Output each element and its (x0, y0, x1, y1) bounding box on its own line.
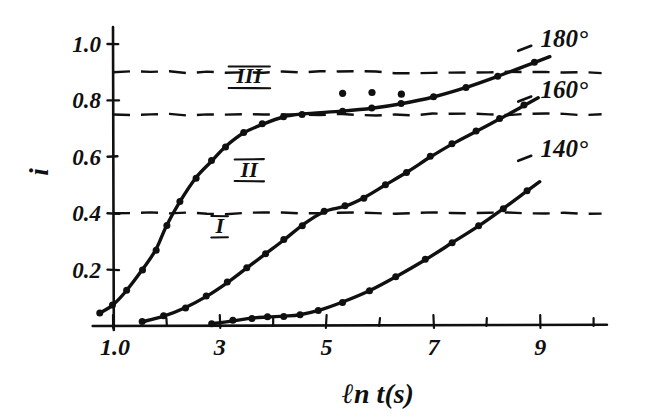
data-point (264, 313, 271, 320)
data-point (500, 205, 507, 212)
data-point (240, 129, 247, 136)
data-point (243, 264, 250, 271)
data-point (473, 128, 480, 135)
data-point (139, 318, 146, 325)
data-point (182, 304, 189, 311)
data-point (341, 202, 348, 209)
data-point (208, 320, 215, 327)
data-point (382, 181, 389, 188)
data-point (280, 313, 287, 320)
data-point (262, 250, 269, 257)
data-point (208, 157, 215, 164)
data-point (531, 59, 538, 66)
data-point (203, 292, 210, 299)
data-point (280, 236, 287, 243)
kinetics-chart: 1.00.80.60.40.2 1.03579 i ℓn t(s) IIIIII… (0, 0, 655, 419)
y-tick-label: 0.2 (72, 258, 101, 283)
x-tick-label: 9 (534, 334, 546, 360)
data-point (403, 169, 410, 176)
data-point (109, 301, 116, 308)
x-axis-tick (379, 318, 380, 326)
data-point (224, 278, 231, 285)
data-point (153, 247, 160, 254)
data-point (449, 239, 456, 246)
series-label-180: 180° (540, 25, 588, 52)
data-point (339, 299, 346, 306)
data-point (163, 222, 170, 229)
data-point (193, 175, 200, 182)
data-point-outlier (339, 90, 346, 97)
data-point (494, 73, 501, 80)
data-point (299, 222, 306, 229)
data-point (315, 307, 322, 314)
data-point (248, 315, 255, 322)
data-point (299, 111, 306, 118)
data-point (392, 273, 399, 280)
y-tick-label: 0.6 (72, 145, 101, 170)
y-tick-label: 0.4 (72, 201, 101, 226)
data-point (368, 105, 375, 112)
data-point (366, 287, 373, 294)
y-tick-label: 1.0 (72, 32, 101, 57)
data-point (520, 101, 527, 108)
data-point-outlier (368, 89, 375, 96)
y-axis-tick (108, 156, 118, 157)
x-tick-label: 7 (427, 334, 440, 360)
figure-container: 1.00.80.60.40.2 1.03579 i ℓn t(s) IIIIII… (0, 0, 655, 419)
x-tick-label: 1.0 (100, 334, 130, 360)
x-axis-tick (326, 315, 327, 328)
x-axis-title: ℓn t(s) (341, 378, 414, 409)
x-axis-line (93, 325, 607, 326)
data-point (462, 84, 469, 91)
series-label-160: 160° (540, 76, 588, 103)
data-point (259, 120, 266, 127)
data-point (427, 153, 434, 160)
data-point (96, 309, 103, 316)
x-axis-tick (433, 315, 434, 328)
data-point (123, 287, 130, 294)
data-point (280, 113, 287, 120)
data-point (229, 317, 236, 324)
data-point (475, 222, 482, 229)
data-point (321, 208, 328, 215)
data-point (422, 256, 429, 263)
x-tick-label: 3 (213, 334, 226, 360)
y-tick-label: 0.8 (72, 88, 101, 113)
data-point (222, 143, 229, 150)
data-point (524, 187, 531, 194)
data-point (160, 312, 167, 319)
data-point (448, 140, 455, 147)
data-point (339, 108, 346, 115)
data-point (139, 267, 146, 274)
data-point (176, 198, 183, 205)
series-label-140: 140° (540, 135, 588, 162)
data-point (398, 100, 405, 107)
x-tick-label: 5 (321, 334, 333, 360)
data-point (360, 195, 367, 202)
data-point (430, 93, 437, 100)
y-axis-title: i (24, 168, 54, 176)
data-point (496, 115, 503, 122)
data-point (297, 311, 304, 318)
data-point-outlier (398, 91, 405, 98)
